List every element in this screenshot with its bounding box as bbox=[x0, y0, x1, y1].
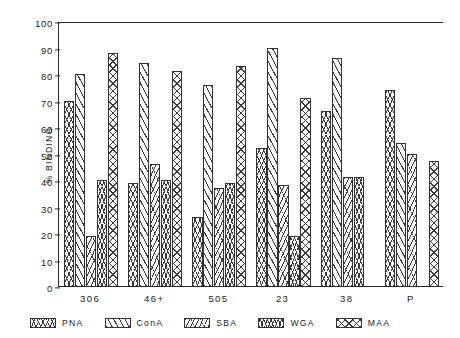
legend-label: PNA bbox=[62, 318, 84, 328]
bar-group-505 bbox=[192, 23, 246, 286]
legend-swatch-SBA-icon bbox=[184, 318, 210, 328]
bar-group-38 bbox=[321, 23, 375, 286]
bar-P-PNA bbox=[385, 90, 395, 286]
plot-inner: 1009080706050403020100 bbox=[59, 23, 443, 286]
bar-306-PNA bbox=[64, 101, 74, 287]
y-axis-tick-40: 40 bbox=[29, 177, 53, 188]
bar-505-SBA bbox=[214, 188, 224, 286]
y-axis-tick-80: 80 bbox=[29, 71, 53, 82]
y-axis-tick-10: 10 bbox=[29, 256, 53, 267]
bar-505-ConA bbox=[203, 85, 213, 286]
bar-23-PNA bbox=[256, 148, 266, 286]
legend-item-PNA: PNA bbox=[30, 318, 84, 328]
legend-swatch-ConA-icon bbox=[105, 318, 131, 328]
bar-P-ConA bbox=[396, 143, 406, 286]
legend-label: SBA bbox=[216, 318, 237, 328]
legend-item-SBA: SBA bbox=[184, 318, 237, 328]
bar-306-MAA bbox=[108, 53, 118, 286]
bar-505-WGA bbox=[225, 183, 235, 286]
plot-area: % BINDING 1009080706050403020100 bbox=[58, 22, 443, 287]
bar-306-ConA bbox=[75, 74, 85, 286]
y-axis-tickmark bbox=[55, 155, 60, 156]
x-axis-tick-P: P bbox=[407, 293, 415, 304]
y-axis-tick-0: 0 bbox=[29, 283, 53, 294]
y-axis-tickmark bbox=[55, 102, 60, 103]
y-axis-tick-70: 70 bbox=[29, 97, 53, 108]
y-axis-tickmark bbox=[55, 208, 60, 209]
legend-label: MAA bbox=[368, 318, 391, 328]
bar-23-MAA bbox=[300, 98, 310, 286]
y-axis-tick-60: 60 bbox=[29, 124, 53, 135]
bar-P-MAA bbox=[429, 161, 439, 286]
bar-23-ConA bbox=[267, 48, 277, 287]
y-axis-tick-100: 100 bbox=[29, 18, 53, 29]
x-axis-tick-23: 23 bbox=[276, 293, 289, 304]
legend-label: WGA bbox=[290, 318, 314, 328]
bar-38-WGA bbox=[354, 177, 364, 286]
bar-306-WGA bbox=[97, 180, 107, 286]
bar-306-SBA bbox=[86, 236, 96, 286]
y-axis-tickmark bbox=[55, 22, 60, 23]
y-axis-tickmark bbox=[55, 75, 60, 76]
legend-swatch-WGA-icon bbox=[258, 318, 284, 328]
legend-item-MAA: MAA bbox=[336, 318, 391, 328]
bar-group-306 bbox=[64, 23, 118, 286]
y-axis-tickmark bbox=[55, 234, 60, 235]
bar-group-P bbox=[385, 23, 439, 286]
chart-legend: PNAConASBAWGAMAA bbox=[30, 314, 430, 332]
x-axis-tick-505: 505 bbox=[208, 293, 228, 304]
bar-chart: % BINDING 1009080706050403020100 30646+5… bbox=[0, 0, 460, 338]
bar-46+-WGA bbox=[161, 180, 171, 286]
bar-group-23 bbox=[256, 23, 310, 286]
x-axis-tick-46+: 46+ bbox=[144, 293, 164, 304]
bar-group-46+ bbox=[128, 23, 182, 286]
y-axis-tickmark bbox=[55, 49, 60, 50]
bar-38-SBA bbox=[343, 177, 353, 286]
bar-505-MAA bbox=[236, 66, 246, 286]
y-axis-tick-20: 20 bbox=[29, 230, 53, 241]
legend-item-ConA: ConA bbox=[105, 318, 164, 328]
bar-23-WGA bbox=[289, 236, 299, 286]
bar-46+-SBA bbox=[150, 164, 160, 286]
legend-label: ConA bbox=[137, 318, 164, 328]
legend-swatch-MAA-icon bbox=[336, 318, 362, 328]
y-axis-tickmark bbox=[55, 261, 60, 262]
y-axis-tickmark bbox=[55, 287, 60, 288]
bar-38-ConA bbox=[332, 58, 342, 286]
legend-item-WGA: WGA bbox=[258, 318, 314, 328]
bar-46+-ConA bbox=[139, 63, 149, 286]
y-axis-tickmark bbox=[55, 128, 60, 129]
y-axis-tick-90: 90 bbox=[29, 44, 53, 55]
bar-P-SBA bbox=[407, 154, 417, 287]
x-axis-tick-306: 306 bbox=[80, 293, 100, 304]
x-axis-tick-38: 38 bbox=[340, 293, 353, 304]
y-axis-tick-30: 30 bbox=[29, 203, 53, 214]
bar-23-SBA bbox=[278, 185, 288, 286]
legend-swatch-PNA-icon bbox=[30, 318, 56, 328]
bar-38-PNA bbox=[321, 111, 331, 286]
bar-46+-MAA bbox=[172, 71, 182, 286]
y-axis-tick-50: 50 bbox=[29, 150, 53, 161]
y-axis-tickmark bbox=[55, 181, 60, 182]
bar-505-PNA bbox=[192, 217, 202, 286]
bar-46+-PNA bbox=[128, 183, 138, 286]
